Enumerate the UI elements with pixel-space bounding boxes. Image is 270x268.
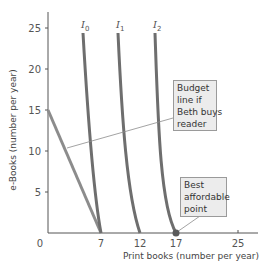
indifference-curve-i0 [83, 33, 101, 233]
callout-line: point [184, 203, 223, 215]
budget-line-callout: Budget line if Beth buys reader [173, 80, 217, 131]
svg-text:0: 0 [85, 25, 89, 33]
svg-text:1: 1 [120, 25, 124, 33]
x-tick-label: 17 [170, 238, 183, 249]
curve-label-i0: I 0 [80, 19, 89, 33]
x-tick-label: 7 [98, 238, 104, 249]
y-tick-label: 20 [28, 64, 41, 75]
svg-text:2: 2 [157, 25, 161, 33]
x-tick-label: 25 [232, 238, 245, 249]
callout-line: reader [177, 118, 213, 130]
chart-canvas: 25 20 15 10 5 0 7 12 17 25 Print books (… [0, 0, 270, 268]
curve-label-i2: I 2 [152, 19, 161, 33]
callout-line: affordable [184, 191, 223, 203]
callout-line: Budget [177, 82, 213, 94]
callout-line: line if [177, 94, 213, 106]
budget-callout-leader [67, 118, 173, 148]
x-tick-label: 12 [134, 238, 147, 249]
y-tick-label: 25 [28, 23, 41, 34]
curve-label-i1: I 1 [115, 19, 124, 33]
x-axis-title: Print books (number per year) [123, 251, 259, 261]
y-tick-label: 5 [35, 187, 41, 198]
y-tick-label: 10 [28, 146, 41, 157]
x-tick-label: 0 [37, 238, 43, 249]
y-axis-title: e-Books (number per year) [8, 69, 18, 190]
indifference-curve-i2 [155, 33, 176, 233]
best-affordable-point-callout: Best affordable point [180, 177, 227, 217]
best-point-callout-leader [177, 216, 200, 232]
callout-line: Beth buys [177, 106, 213, 118]
best-affordable-point-marker [173, 230, 180, 237]
y-tick-label: 15 [28, 105, 41, 116]
callout-line: Best [184, 179, 223, 191]
